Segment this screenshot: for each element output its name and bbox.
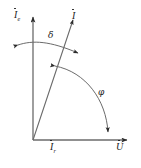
vertical-axis-label-base: I [14,10,17,20]
reactive-current-label: Ir [50,142,56,154]
phi-angle-label: φ [98,88,104,97]
delta-angle-label: δ [48,31,53,40]
voltage-axis-label: U [116,142,123,152]
reactive-current-label-subscript: r [54,147,56,154]
current-phasor-label: I [72,11,75,21]
vertical-axis-label-subscript: e [18,15,21,22]
voltage-axis-label-base: U [116,142,123,152]
reactive-current-label-base: I [50,142,53,152]
phi-angle-arc [55,66,108,132]
vertical-axis-label: Ie [14,10,20,22]
phasor-diagram-figure: Ie I Ir U δ φ [0,0,141,168]
current-phasor-label-base: I [72,11,75,21]
delta-angle-arc [18,42,78,53]
